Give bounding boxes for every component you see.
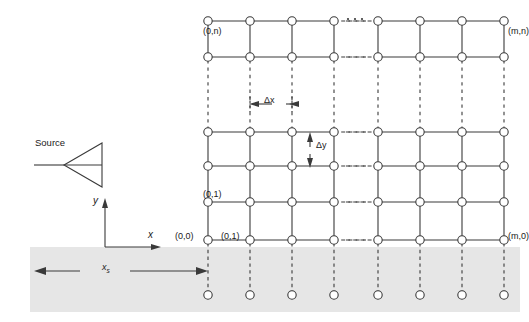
source-label: Source [35,138,65,148]
node-label-m-n: (m,n) [508,27,529,36]
vertical-ellipsis-dashes [208,60,504,129]
coordinate-axes [102,198,161,250]
top-block-horizontal-edges [208,21,504,57]
xs-dimension-label: xs [102,263,110,274]
xs-subscript: s [107,267,110,274]
source-symbol [34,143,102,187]
delta-y-label: Δy [316,141,327,150]
main-block-vertical-edges [208,132,504,240]
y-axis-label: y [93,196,98,206]
main-block-horizontal-edges [208,132,504,240]
top-block-horizontal-ellipsis [334,21,378,57]
node-label-m-0: (m,0) [508,232,529,241]
node-label-0-0: (0,0) [175,232,194,241]
node-label-0-n: (0,n) [203,27,222,36]
node-label-0-1-lower: (0,1) [221,232,240,241]
ground-region [30,247,520,312]
top-block-vertical-edges [208,21,504,57]
main-block-horizontal-ellipsis [334,132,378,240]
block-gap-dot-ellipsis [347,18,363,20]
delta-y-dimension-arrow [307,132,313,168]
node-label-0-1-upper: (0,1) [203,190,222,199]
delta-x-label: Δx [264,96,275,105]
x-axis-label: x [148,230,153,240]
